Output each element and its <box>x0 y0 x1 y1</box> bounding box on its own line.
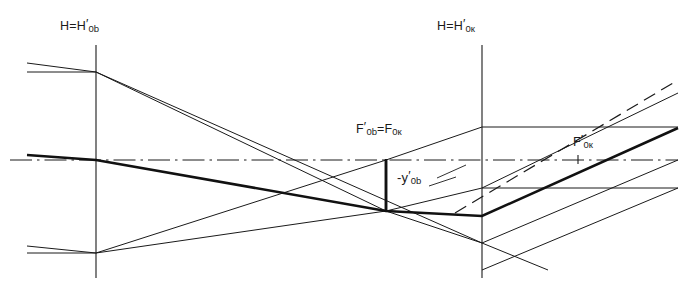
lower-ray-a-path <box>27 127 482 253</box>
thin-ray-bundle <box>27 63 678 270</box>
mid-focus-label-eq: =F <box>377 122 392 136</box>
upper-ray-b-path <box>27 72 482 243</box>
left-principal-plane-label: H=H′0b <box>60 18 99 34</box>
right-focus-label: F′0к <box>573 134 593 150</box>
optical-ray-diagram: H=H′0b H=H′0к F′0b=F0к -y′0b F′0к <box>0 0 687 288</box>
right-focus-label-main: F <box>573 135 581 149</box>
object-height-label-main: -y <box>397 170 408 185</box>
mid-focus-label: F′0b=F0к <box>356 121 402 137</box>
y-label-leader-line <box>437 165 466 178</box>
left-plane-label-main: H=H <box>60 19 86 33</box>
right-focus-label-sub: 0к <box>583 139 592 150</box>
mid-focus-label-sub2: 0к <box>392 126 401 137</box>
right-plane-label-sub: 0к <box>466 23 475 34</box>
mid-focus-label-sub1: 0b <box>366 126 377 137</box>
label-leader-lines <box>429 165 466 186</box>
object-height-label: -y′0b <box>397 170 421 186</box>
right-exit-ray-bottom-line <box>482 188 678 270</box>
mid-focus-label-main: F <box>356 122 364 136</box>
object-height-label-sub: 0b <box>411 175 422 186</box>
right-principal-plane-label: H=H′0к <box>437 18 475 34</box>
right-plane-label-main: H=H <box>437 19 463 33</box>
left-plane-label-sub: 0b <box>89 23 100 34</box>
dashed-virtual-ray-line <box>455 80 678 213</box>
y-label-leader-line-2 <box>429 177 456 186</box>
vertical-principal-planes <box>96 45 482 278</box>
